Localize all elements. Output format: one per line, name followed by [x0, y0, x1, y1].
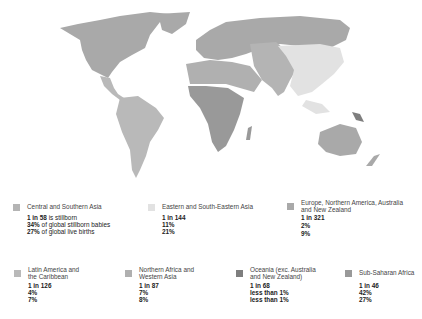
- region-greenland: [158, 12, 190, 34]
- share-stillborn: 7%: [139, 289, 148, 296]
- legend-region-label-line1: Latin America and: [28, 266, 79, 273]
- stillbirth-rate: 1 in 321: [301, 214, 324, 221]
- share-stillborn: 2%: [301, 222, 310, 229]
- share-live-births: 27%: [27, 228, 40, 235]
- legend-region-label-line2: the Caribbean: [28, 273, 68, 280]
- stillbirth-rate: 1 in 144: [162, 214, 185, 221]
- share-stillborn: 11%: [162, 221, 174, 228]
- legend-region-label-line1: Europe, Northern America, Australia: [301, 199, 403, 206]
- share-stillborn: 4%: [28, 289, 37, 296]
- legend-latin-america-caribbean: Latin America and the Caribbean 1 in 126…: [14, 266, 114, 310]
- share-live-births: 27%: [359, 296, 372, 303]
- legend-swatch: [236, 270, 243, 277]
- legend-swatch: [13, 204, 20, 211]
- region-south-america: [116, 96, 164, 178]
- stillbirth-rate: 1 in 58: [27, 214, 47, 221]
- region-north-america: [60, 12, 170, 78]
- region-sub-saharan-africa: [188, 86, 244, 152]
- legend-swatch: [125, 270, 132, 277]
- legend-region-label-line1: Oceania (exc. Australia: [250, 266, 316, 273]
- legend-region-label: Eastern and South-Eastern Asia: [162, 203, 253, 210]
- share-live-births: 7%: [28, 296, 37, 303]
- share-live-births: 8%: [139, 296, 148, 303]
- legend-region-label-line2: and New Zealand): [250, 273, 302, 280]
- share-stillborn: less than 1%: [250, 289, 289, 296]
- region-australia: [318, 124, 362, 156]
- stillbirth-rate: 1 in 46: [359, 282, 379, 289]
- legend-sub-saharan-africa: Sub-Saharan Africa 1 in 46 42% 27%: [345, 269, 422, 309]
- legend-oceania: Oceania (exc. Australia and New Zealand)…: [236, 266, 336, 310]
- legend-europe-na-aus-nz: Europe, Northern America, Australia and …: [287, 199, 421, 247]
- legend-region-label: Sub-Saharan Africa: [359, 269, 414, 276]
- share-live-births: less than 1%: [250, 296, 289, 303]
- legend-central-southern-asia: Central and Southern Asia 1 in 58 is sti…: [13, 203, 143, 243]
- legend-swatch: [148, 204, 155, 211]
- stillbirth-rate: 1 in 126: [28, 282, 51, 289]
- legend-swatch: [345, 270, 352, 277]
- stillbirth-rate: 1 in 68: [250, 282, 270, 289]
- region-central-america: [100, 76, 124, 100]
- share-live-births: 21%: [162, 228, 175, 235]
- share-stillborn: 34%: [27, 221, 40, 228]
- share-live-births: 9%: [301, 230, 310, 237]
- region-oceania: [352, 112, 364, 122]
- legend-region-label-line2: and New Zealand: [301, 206, 351, 213]
- share-stillborn: 42%: [359, 289, 372, 296]
- legend-north-africa-west-asia: Northern Africa and Western Asia 1 in 87…: [125, 266, 225, 310]
- legend-region-label-line1: Northern Africa and: [139, 266, 194, 273]
- legend-region-label: Central and Southern Asia: [27, 203, 102, 210]
- legend-swatch: [14, 270, 21, 277]
- legend-region-label-line2: Western Asia: [139, 273, 177, 280]
- stillbirth-rate: 1 in 87: [139, 282, 159, 289]
- legend-east-southeast-asia: Eastern and South-Eastern Asia 1 in 144 …: [148, 203, 278, 243]
- world-map: [0, 0, 422, 195]
- legend-swatch: [287, 203, 294, 210]
